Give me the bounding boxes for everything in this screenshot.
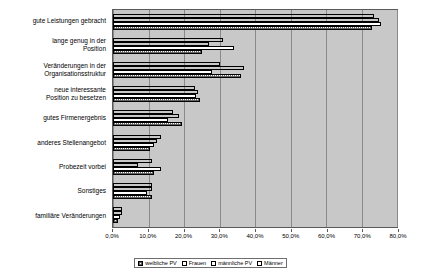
category-label: anderes Stellenangebot [0,131,110,155]
category-label: Probezeit vorbei [0,155,110,179]
axis-tick [184,229,185,232]
legend-item[interactable]: männliche PV [211,260,252,266]
bar [113,50,202,54]
bar-group [113,203,397,227]
legend-swatch-icon [138,261,143,266]
gridline [397,10,398,227]
legend-label: männliche PV [218,260,252,266]
bar [113,98,200,102]
legend-label: Frauen [189,260,206,266]
axis-tick [112,229,113,232]
bar-row [113,26,397,30]
bar-group [113,179,397,203]
legend-swatch-icon [211,261,216,266]
legend-item[interactable]: Frauen [182,260,206,266]
axis-tick-label: 80,0% [389,233,406,239]
bar [113,171,154,175]
plot-area [112,9,398,228]
axis-tick-label: 0,0% [105,233,119,239]
legend-item[interactable]: Männer [257,260,283,266]
axis-tick-label: 30,0% [211,233,228,239]
axis-tick [327,229,328,232]
axis-tick [362,229,363,232]
bar-group [113,82,397,106]
bar [113,26,372,30]
bar-row [113,50,397,54]
category-label: lange genug in der Position [0,33,110,57]
bar [113,219,118,223]
category-label: familiäre Veränderungen [0,204,110,228]
axis-tick [291,229,292,232]
axis-tick-label: 20,0% [175,233,192,239]
axis-tick-label: 60,0% [318,233,335,239]
bar-group [113,106,397,130]
bar-row [113,98,397,102]
legend-swatch-icon [257,261,262,266]
bar-row [113,195,397,199]
bar-row [113,122,397,126]
legend-label: Männer [264,260,283,266]
value-axis: 0,0%10,0%20,0%30,0%40,0%50,0%60,0%70,0%8… [112,229,398,243]
bar-row [113,171,397,175]
axis-tick-label: 50,0% [282,233,299,239]
bar-group [113,58,397,82]
legend-box: weibliche PVFrauenmännliche PVMänner [134,258,287,268]
bar-group [113,34,397,58]
bar-row [113,74,397,78]
category-label: gutes Firmenergebnis [0,106,110,130]
category-label: gute Leistungen gebracht [0,9,110,33]
axis-tick [148,229,149,232]
bar-groups [113,10,397,227]
bar-group [113,131,397,155]
bar-chart: gute Leistungen gebrachtlange genug in d… [0,0,421,277]
category-label: Sonstiges [0,179,110,203]
category-axis: gute Leistungen gebrachtlange genug in d… [0,9,110,228]
bar-group [113,10,397,34]
axis-tick [398,229,399,232]
axis-tick-label: 40,0% [246,233,263,239]
legend: weibliche PVFrauenmännliche PVMänner [0,258,421,268]
axis-tick [219,229,220,232]
category-label: Veränderungen in der Organisationsstrukt… [0,58,110,82]
bar [113,74,241,78]
axis-tick-label: 10,0% [139,233,156,239]
bar [113,122,182,126]
bar [113,195,152,199]
legend-label: weibliche PV [145,260,177,266]
legend-item[interactable]: weibliche PV [138,260,177,266]
bar-row [113,147,397,151]
category-label: neue interessante Position zu besetzen [0,82,110,106]
axis-tick [255,229,256,232]
bar-group [113,155,397,179]
bar-row [113,219,397,223]
legend-swatch-icon [182,261,187,266]
axis-tick-label: 70,0% [354,233,371,239]
bar [113,147,150,151]
